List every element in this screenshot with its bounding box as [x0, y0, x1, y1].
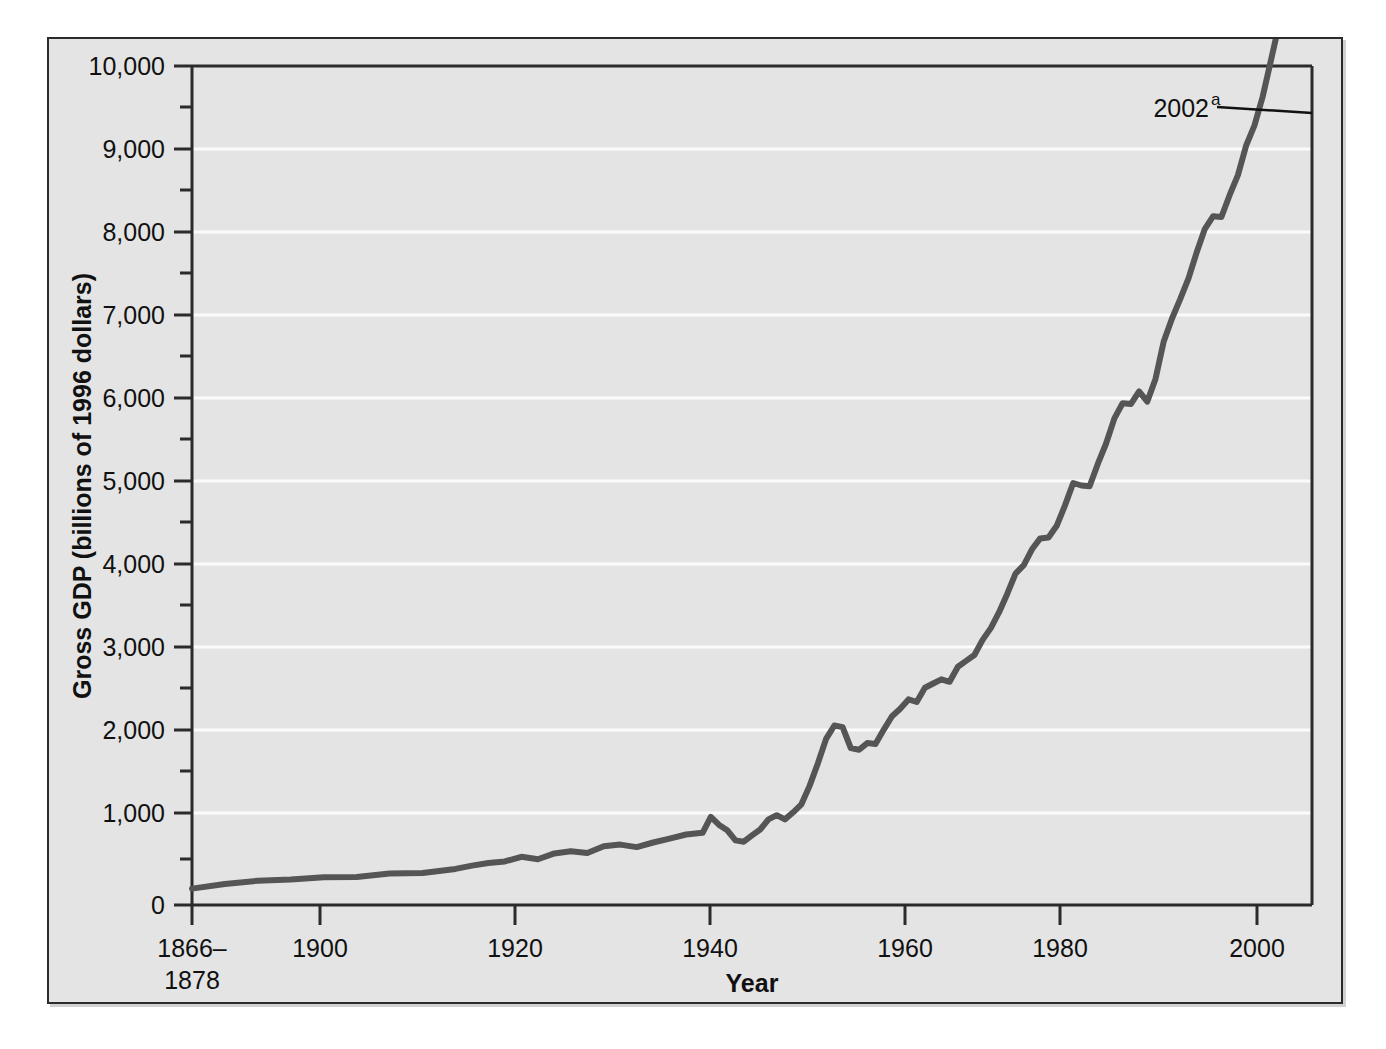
y-tick-label: 7,000: [102, 301, 165, 329]
y-tick-label: 0: [151, 891, 165, 919]
gdp-line-chart: 10,000 9,000 8,000 7,000 6,000 5,000 4,0…: [49, 39, 1341, 1002]
x-tick-label-1920: 1920: [487, 934, 543, 962]
annotation-superscript-a: a: [1211, 90, 1221, 109]
chart-page: 10,000 9,000 8,000 7,000 6,000 5,000 4,0…: [0, 0, 1386, 1049]
y-tick-label: 4,000: [102, 550, 165, 578]
y-tick-label: 5,000: [102, 467, 165, 495]
y-tick-label: 9,000: [102, 135, 165, 163]
y-axis-title: Gross GDP (billions of 1996 dollars): [68, 273, 96, 699]
y-tick-label: 2,000: [102, 716, 165, 744]
y-tick-label: 1,000: [102, 799, 165, 827]
x-tick-label-1960: 1960: [877, 934, 933, 962]
x-tick-label-1940: 1940: [682, 934, 738, 962]
x-tick-label-1900: 1900: [292, 934, 348, 962]
plot-background: [49, 39, 1341, 1002]
x-axis-title: Year: [726, 969, 779, 997]
x-tick-label-1866-1878-line1: 1866–: [157, 934, 227, 962]
figure-frame: 10,000 9,000 8,000 7,000 6,000 5,000 4,0…: [47, 37, 1343, 1004]
x-tick-label-1866-1878-line2: 1878: [164, 966, 220, 994]
y-tick-label: 3,000: [102, 633, 165, 661]
annotation-label-2002: 2002: [1153, 94, 1209, 122]
y-tick-label: 10,000: [89, 52, 165, 80]
x-tick-label-2000: 2000: [1229, 934, 1285, 962]
x-tick-label-1980: 1980: [1032, 934, 1088, 962]
y-tick-label: 6,000: [102, 384, 165, 412]
y-tick-label: 8,000: [102, 218, 165, 246]
